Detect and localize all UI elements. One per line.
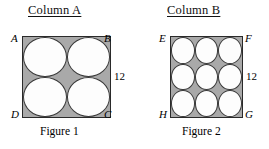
vertex-label-b: B xyxy=(104,33,111,44)
circle xyxy=(171,37,195,64)
circle xyxy=(195,64,219,91)
circle xyxy=(171,64,195,91)
inscribed-circles-grid-figure-2 xyxy=(171,37,242,117)
vertex-label-h: H xyxy=(159,109,167,120)
square-efgh xyxy=(170,36,243,118)
vertex-label-f: F xyxy=(245,33,252,44)
vertex-label-a: A xyxy=(11,33,18,44)
circle xyxy=(23,77,67,117)
vertex-label-c: C xyxy=(104,109,111,120)
inscribed-circles-grid-figure-1 xyxy=(23,37,110,117)
square-abcd xyxy=(22,36,111,118)
side-length-label-figure-1: 12 xyxy=(114,71,125,82)
circle xyxy=(218,37,242,64)
circle xyxy=(218,90,242,117)
circle xyxy=(195,90,219,117)
geometry-comparison-figure: Column A Column B A B D C 12 Figure 1 xyxy=(0,0,269,149)
circle xyxy=(171,90,195,117)
side-length-label-figure-2: 12 xyxy=(246,71,257,82)
vertex-label-g: G xyxy=(245,109,253,120)
circle xyxy=(23,37,67,77)
figure-2-diagram xyxy=(170,36,243,118)
figure-2-caption: Figure 2 xyxy=(182,126,221,138)
column-b-heading: Column B xyxy=(167,3,220,18)
figure-1-caption: Figure 1 xyxy=(40,126,79,138)
column-a-heading: Column A xyxy=(28,3,81,18)
vertex-label-d: D xyxy=(11,109,19,120)
circle xyxy=(218,64,242,91)
vertex-label-e: E xyxy=(159,33,166,44)
figure-1-diagram xyxy=(22,36,111,118)
circle xyxy=(195,37,219,64)
